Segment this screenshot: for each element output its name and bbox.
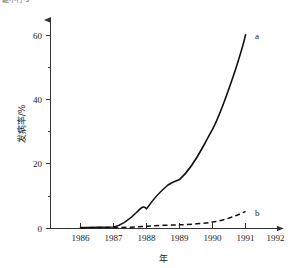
y-tick-label-60: 60: [33, 31, 43, 41]
x-tick-label-1988: 1988: [138, 233, 157, 243]
series-a-line: [81, 35, 246, 228]
series-b-label: b: [255, 208, 260, 218]
x-tick-label-1992: 1992: [267, 233, 285, 243]
x-tick-label-1991: 1991: [237, 233, 255, 243]
x-axis-ticks: 1986 1987 1988 1989 1990 1991 1992: [72, 223, 285, 244]
y-tick-label-0: 0: [38, 224, 43, 234]
chart-figure: 能不行 s 0 20 40 60: [0, 0, 291, 268]
x-axis-title: 年: [159, 253, 168, 264]
clipped-header-text: 能不行 s: [2, 0, 122, 4]
y-tick-label-20: 20: [33, 159, 43, 169]
y-axis-ticks: 0 20 40 60: [33, 31, 51, 234]
y-tick-label-40: 40: [33, 95, 43, 105]
series-b-line: [81, 211, 246, 228]
x-tick-label-1986: 1986: [72, 233, 91, 243]
x-tick-label-1990: 1990: [204, 233, 223, 243]
y-axis-title: 发病率/%: [16, 104, 27, 143]
axes: [51, 20, 284, 229]
x-tick-label-1987: 1987: [105, 233, 124, 243]
incidence-rate-line-chart: 0 20 40 60 1986 1987 1988 1989 1990 1991…: [0, 0, 291, 268]
series-a-label: a: [255, 31, 259, 41]
x-tick-label-1989: 1989: [171, 233, 190, 243]
